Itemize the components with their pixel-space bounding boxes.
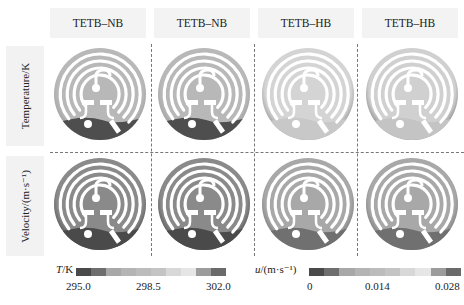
legend-tick: 295.0: [66, 280, 91, 292]
coil-contour-plot: [156, 46, 252, 142]
temperature-legend-title: T/K: [56, 263, 73, 275]
legend-tick: 298.5: [136, 280, 161, 292]
row-header-velocity: Velocity/(m·s⁻¹): [6, 156, 44, 256]
column-header-3: TETB–HB: [258, 8, 354, 38]
panel-velocity-hb-1: [260, 156, 356, 252]
coil-contour-plot: [52, 46, 148, 142]
legend-tick: 0: [307, 280, 313, 292]
coil-contour-plot: [260, 46, 356, 142]
coil-contour-plot: [364, 46, 460, 142]
column-header-1: TETB–NB: [50, 8, 146, 38]
column-divider: [254, 44, 255, 256]
column-header-label: TETB–HB: [385, 17, 435, 29]
panel-temperature-nb-1: [52, 46, 148, 142]
coil-contour-plot: [52, 156, 148, 252]
row-header-temperature: Temperature/K: [6, 46, 44, 146]
velocity-legend-title: u/(m·s⁻¹): [255, 263, 297, 276]
legend-tick: 0.028: [435, 280, 460, 292]
temperature-legend: T/K 295.0 298.5 302.0: [56, 260, 246, 300]
legend-unit: /(m·s⁻¹): [261, 263, 297, 275]
coil-contour-plot: [156, 156, 252, 252]
column-header-4: TETB–HB: [362, 8, 458, 38]
coil-contour-plot: [260, 156, 356, 252]
panel-velocity-nb-2: [156, 156, 252, 252]
column-header-label: TETB–HB: [281, 17, 331, 29]
panel-temperature-hb-2: [364, 46, 460, 142]
panel-temperature-hb-1: [260, 46, 356, 142]
column-divider: [151, 44, 152, 256]
velocity-colorbar: [309, 268, 461, 276]
column-header-label: TETB–NB: [73, 17, 123, 29]
velocity-legend: u/(m·s⁻¹) 0 0.014 0.028: [255, 260, 464, 300]
coil-contour-plot: [364, 156, 460, 252]
panel-temperature-nb-2: [156, 46, 252, 142]
panel-velocity-nb-1: [52, 156, 148, 252]
legend-tick: 302.0: [206, 280, 231, 292]
row-header-label: Temperature/K: [19, 63, 31, 129]
panel-velocity-hb-2: [364, 156, 460, 252]
column-header-label: TETB–NB: [177, 17, 227, 29]
row-divider: [50, 152, 464, 153]
row-header-label: Velocity/(m·s⁻¹): [19, 170, 32, 243]
legend-unit: /K: [62, 263, 73, 275]
temperature-colorbar: [76, 268, 226, 276]
legend-tick: 0.014: [365, 280, 390, 292]
column-header-2: TETB–NB: [154, 8, 250, 38]
column-divider: [357, 44, 358, 256]
